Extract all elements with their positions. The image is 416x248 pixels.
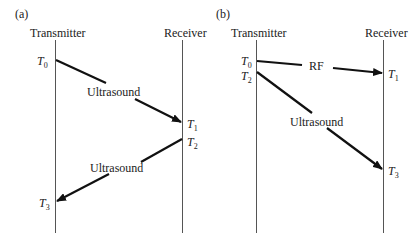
panel-a-t3-label: T3 [39, 196, 50, 212]
panel-b-ultrasound-arrow: Ultrasound [257, 72, 382, 169]
panel-a-receiver-label: Receiver [164, 26, 207, 40]
panel-b-rf-label: RF [309, 59, 324, 73]
panel-a: (a) Transmitter Receiver T0 T1 T2 T3 Ult… [15, 7, 207, 233]
panel-b-rf-arrow: RF [257, 59, 382, 73]
panel-a-t0-label: T0 [37, 54, 48, 70]
panel-b: (b) Transmitter Receiver T0 T2 T1 T3 RF … [216, 7, 408, 233]
panel-a-t2-label: T2 [187, 135, 198, 151]
panel-b-t1-label: T1 [388, 67, 399, 83]
timing-diagram: (a) Transmitter Receiver T0 T1 T2 T3 Ult… [0, 0, 416, 248]
panel-a-ultrasound-arrow-1: Ultrasound [56, 60, 181, 122]
panel-a-t1-label: T1 [187, 117, 198, 133]
panel-b-t0-label: T0 [241, 54, 252, 70]
panel-a-ultrasound-arrow-2: Ultrasound [57, 139, 182, 201]
panel-b-receiver-label: Receiver [365, 26, 408, 40]
panel-a-ultrasound-label-1: Ultrasound [87, 85, 140, 99]
panel-a-ultrasound-label-2: Ultrasound [90, 161, 143, 175]
panel-b-t3-label: T3 [388, 164, 399, 180]
panel-b-transmitter-label: Transmitter [231, 26, 287, 40]
panel-a-transmitter-label: Transmitter [30, 26, 86, 40]
panel-b-t2-label: T2 [241, 69, 252, 85]
panel-a-label: (a) [15, 7, 28, 21]
panel-b-ultrasound-label: Ultrasound [290, 115, 343, 129]
panel-b-label: (b) [216, 7, 230, 21]
